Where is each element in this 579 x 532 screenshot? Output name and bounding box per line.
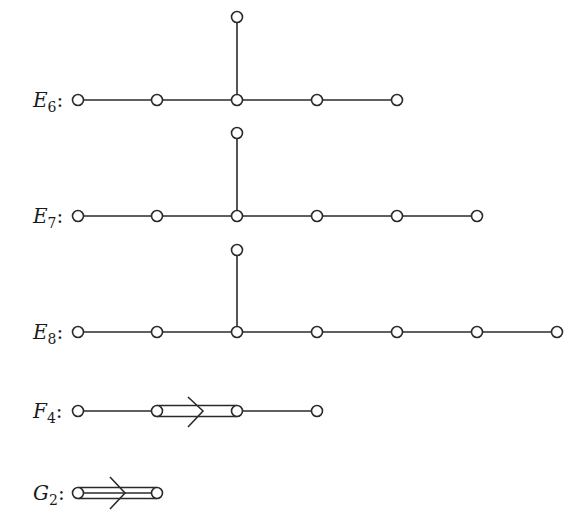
node [73,406,84,417]
label-g2: G2: [33,481,65,508]
node [232,95,243,106]
node [73,327,84,338]
node [472,211,483,222]
node [232,211,243,222]
node [232,245,243,256]
diagram-e7: E7: [32,128,483,232]
diagram-e6: E6: [32,12,403,116]
node [552,327,563,338]
label-f4: F4: [32,399,63,426]
node [312,406,323,417]
node [152,327,163,338]
node [232,327,243,338]
node [73,211,84,222]
diagram-g2: G2: [33,477,163,509]
node [152,488,163,499]
node [232,406,243,417]
node [152,211,163,222]
node [392,95,403,106]
node [73,95,84,106]
node [232,12,243,23]
label-e8: E8: [32,320,63,347]
node [312,95,323,106]
node [392,327,403,338]
node [152,406,163,417]
node [312,327,323,338]
label-e7: E7: [32,204,63,231]
node [312,211,323,222]
node [472,327,483,338]
node [392,211,403,222]
arrow-right-icon [188,397,203,427]
diagram-f4: F4: [32,397,323,427]
node [152,95,163,106]
label-e6: E6: [32,88,63,115]
diagram-e8: E8: [32,245,563,348]
dynkin-diagrams-canvas: E6: E7: E8: F4: [0,0,579,532]
node [73,488,84,499]
node [232,128,243,139]
